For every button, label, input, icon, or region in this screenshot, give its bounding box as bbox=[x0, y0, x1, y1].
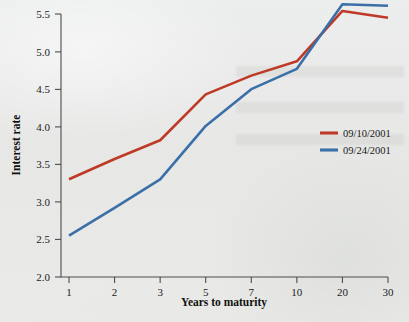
x-tick-label: 3 bbox=[157, 286, 163, 298]
line-chart-plot: 2.0 2.5 3.0 3.5 4.0 4.5 5.0 5.5 12357102… bbox=[0, 0, 409, 322]
x-axis-title: Years to maturity bbox=[181, 296, 267, 309]
y-tick-label: 4.5 bbox=[36, 83, 50, 95]
yield-curve-figure: 2.0 2.5 3.0 3.5 4.0 4.5 5.0 5.5 12357102… bbox=[0, 0, 409, 322]
legend: 09/10/2001 09/24/2001 bbox=[320, 128, 391, 156]
y-axis-tick-labels: 2.0 2.5 3.0 3.5 4.0 4.5 5.0 5.5 bbox=[36, 8, 50, 283]
legend-label-series-1: 09/10/2001 bbox=[343, 128, 391, 139]
x-tick-label: 10 bbox=[291, 286, 303, 298]
axis-lines bbox=[61, 14, 388, 277]
y-tick-label: 5.5 bbox=[36, 8, 50, 20]
y-tick-label: 2.5 bbox=[36, 233, 50, 245]
x-axis-ticks bbox=[69, 277, 388, 283]
x-tick-label: 1 bbox=[66, 286, 72, 298]
series-group bbox=[69, 4, 388, 235]
x-tick-label: 20 bbox=[337, 286, 349, 298]
x-tick-label: 2 bbox=[112, 286, 118, 298]
y-axis-title: Interest rate bbox=[10, 115, 22, 176]
y-tick-label: 3.5 bbox=[36, 158, 50, 170]
y-tick-label: 4.0 bbox=[36, 121, 50, 133]
series-line-2 bbox=[69, 4, 388, 235]
y-tick-label: 5.0 bbox=[36, 46, 50, 58]
y-axis-ticks bbox=[55, 14, 61, 277]
x-tick-label: 30 bbox=[383, 286, 395, 298]
y-tick-label: 2.0 bbox=[36, 271, 50, 283]
y-tick-label: 3.0 bbox=[36, 196, 50, 208]
legend-label-series-2: 09/24/2001 bbox=[343, 145, 391, 156]
axes-group bbox=[61, 14, 388, 277]
series-line-1 bbox=[69, 11, 388, 179]
